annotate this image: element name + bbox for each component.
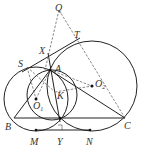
dashed-qc	[59, 10, 125, 118]
geometry-diagram: Q T X S A O1 O2 K B C Y M N	[0, 0, 142, 152]
label-o1: O1	[33, 100, 43, 112]
label-k: K	[56, 90, 65, 101]
label-n: N	[85, 136, 94, 147]
point-n	[89, 129, 92, 132]
right-angle-mark	[58, 125, 62, 130]
label-b: B	[5, 121, 11, 132]
point-y-foot	[59, 117, 62, 120]
label-x: X	[38, 45, 46, 56]
point-a	[49, 69, 52, 72]
label-m: M	[29, 136, 39, 147]
dashed-qx	[45, 10, 59, 70]
label-o2: O2	[95, 78, 105, 90]
label-q: Q	[55, 2, 63, 13]
label-y: Y	[57, 136, 64, 147]
label-s: S	[18, 58, 23, 69]
label-a: A	[54, 63, 62, 74]
point-m	[35, 129, 38, 132]
point-o2	[91, 85, 94, 88]
label-c: C	[124, 120, 131, 131]
